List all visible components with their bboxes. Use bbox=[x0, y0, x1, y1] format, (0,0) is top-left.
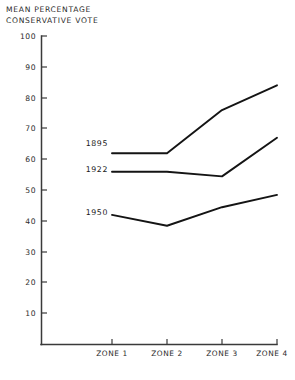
series-label-1895: 1895 bbox=[86, 139, 108, 148]
series-annotations: 1895 1922 1950 bbox=[86, 139, 108, 217]
series-line-1922 bbox=[112, 138, 277, 177]
x-tick-label-zone-1: ZONE 1 bbox=[96, 349, 128, 358]
series-label-1950: 1950 bbox=[86, 208, 108, 217]
y-tick-label-100: 100 bbox=[20, 32, 36, 41]
series-group bbox=[112, 85, 277, 225]
series-line-1895 bbox=[112, 85, 277, 153]
y-tick-label-40: 40 bbox=[25, 217, 36, 226]
y-tick-label-60: 60 bbox=[25, 155, 36, 164]
y-tick-label-90: 90 bbox=[25, 63, 36, 72]
series-line-1950 bbox=[112, 195, 277, 226]
x-axis: ZONE 1 ZONE 2 ZONE 3 ZONE 4 bbox=[41, 339, 288, 358]
chart-page: MEAN PERCENTAGE CONSERVATIVE VOTE 100 90… bbox=[0, 0, 295, 380]
y-tick-label-10: 10 bbox=[25, 309, 36, 318]
x-tick-label-zone-2: ZONE 2 bbox=[151, 349, 183, 358]
y-tick-label-50: 50 bbox=[25, 186, 36, 195]
y-tick-label-30: 30 bbox=[25, 248, 36, 257]
x-tick-label-zone-3: ZONE 3 bbox=[206, 349, 238, 358]
series-label-1922: 1922 bbox=[86, 165, 108, 174]
x-tick-label-zone-4: ZONE 4 bbox=[256, 349, 288, 358]
y-axis: 100 90 80 70 60 50 40 30 20 10 bbox=[20, 32, 47, 345]
y-tick-label-80: 80 bbox=[25, 94, 36, 103]
y-tick-label-70: 70 bbox=[25, 124, 36, 133]
line-chart: 100 90 80 70 60 50 40 30 20 10 ZONE 1 ZO… bbox=[0, 0, 295, 380]
y-tick-label-20: 20 bbox=[25, 278, 36, 287]
